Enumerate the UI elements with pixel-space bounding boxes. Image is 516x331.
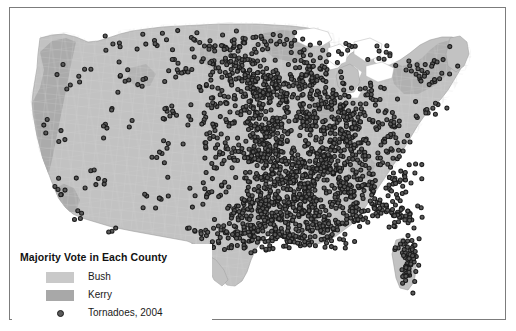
legend-item-bush: Bush — [12, 270, 212, 286]
legend-marker-tornado — [56, 309, 66, 319]
legend-item-tornadoes: Tornadoes, 2004 — [12, 306, 212, 322]
legend-label-tornadoes: Tornadoes, 2004 — [88, 307, 163, 318]
legend-swatch-bush — [46, 272, 74, 283]
figure-container: Majority Vote in Each County Bush Kerry … — [0, 0, 516, 331]
legend-item-kerry: Kerry — [12, 288, 212, 304]
legend-swatch-kerry — [46, 290, 74, 301]
legend-label-bush: Bush — [88, 271, 111, 282]
legend-title: Majority Vote in Each County — [20, 251, 167, 263]
map-legend: Majority Vote in Each County Bush Kerry … — [12, 244, 212, 322]
legend-label-kerry: Kerry — [88, 289, 112, 300]
tornado-dot-icon — [57, 310, 64, 317]
